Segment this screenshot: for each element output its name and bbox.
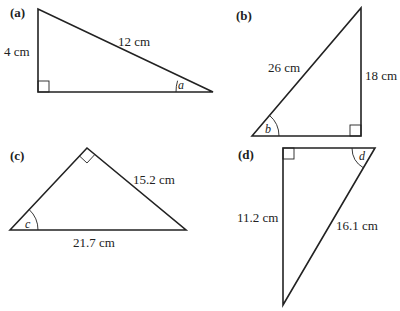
side-label-a-vertical: 4 cm <box>4 44 30 59</box>
right-angle-marker-d <box>283 148 294 159</box>
angle-label-d: d <box>359 149 366 163</box>
triangles-diagram: (a) 4 cm 12 cm a (b) 26 cm 18 cm b (c) 1… <box>0 0 400 311</box>
triangle-c: (c) 15.2 cm 21.7 cm c <box>10 148 186 250</box>
angle-label-b: b <box>265 122 271 136</box>
side-label-b-hypotenuse: 26 cm <box>268 60 300 75</box>
side-label-c-hypotenuse: 21.7 cm <box>73 235 115 250</box>
triangle-d: (d) 11.2 cm 16.1 cm d <box>237 147 378 305</box>
right-angle-marker-a <box>38 81 49 92</box>
triangle-b: (b) 26 cm 18 cm b <box>236 8 397 136</box>
angle-label-c: c <box>25 217 31 231</box>
angle-label-a: a <box>178 78 184 92</box>
right-angle-marker-b <box>350 125 361 136</box>
part-label-d: (d) <box>238 147 254 162</box>
part-label-a: (a) <box>10 5 25 20</box>
triangle-a: (a) 4 cm 12 cm a <box>4 5 213 92</box>
side-label-c-right: 15.2 cm <box>133 172 175 187</box>
side-label-d-hypotenuse: 16.1 cm <box>336 218 378 233</box>
part-label-b: (b) <box>236 8 252 23</box>
triangle-a-outline <box>38 9 213 92</box>
part-label-c: (c) <box>10 148 24 163</box>
right-angle-marker-c <box>80 155 95 164</box>
side-label-b-vertical: 18 cm <box>365 68 397 83</box>
side-label-a-hypotenuse: 12 cm <box>118 34 150 49</box>
angle-arc-c <box>29 210 38 230</box>
side-label-d-vertical: 11.2 cm <box>237 210 278 225</box>
triangle-c-outline <box>10 148 186 230</box>
